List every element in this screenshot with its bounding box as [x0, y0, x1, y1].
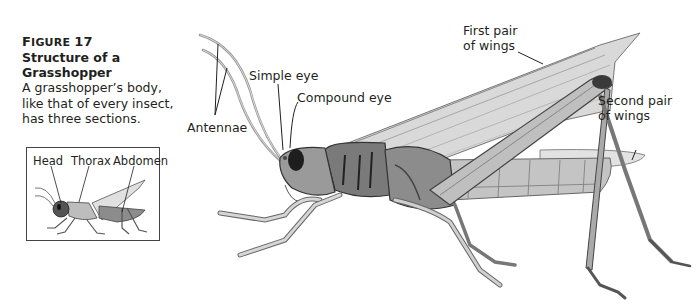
inset-body-sections: Head Thorax Abdomen	[26, 147, 160, 241]
inset-grasshopper	[27, 148, 159, 240]
simple-eye-drawing	[283, 156, 287, 160]
label-first-pair-wings: First pair of wings	[463, 23, 518, 53]
thorax-drawing	[325, 142, 455, 209]
label-compound-eye: Compound eye	[297, 90, 392, 105]
label-simple-eye: Simple eye	[249, 68, 318, 83]
label-antennae: Antennae	[187, 120, 247, 135]
middle-legs-drawing	[395, 200, 515, 285]
label-second-pair-wings: Second pair of wings	[598, 93, 672, 123]
front-legs-drawing	[220, 195, 340, 255]
head-drawing	[280, 147, 335, 202]
compound-eye-drawing	[288, 149, 304, 171]
